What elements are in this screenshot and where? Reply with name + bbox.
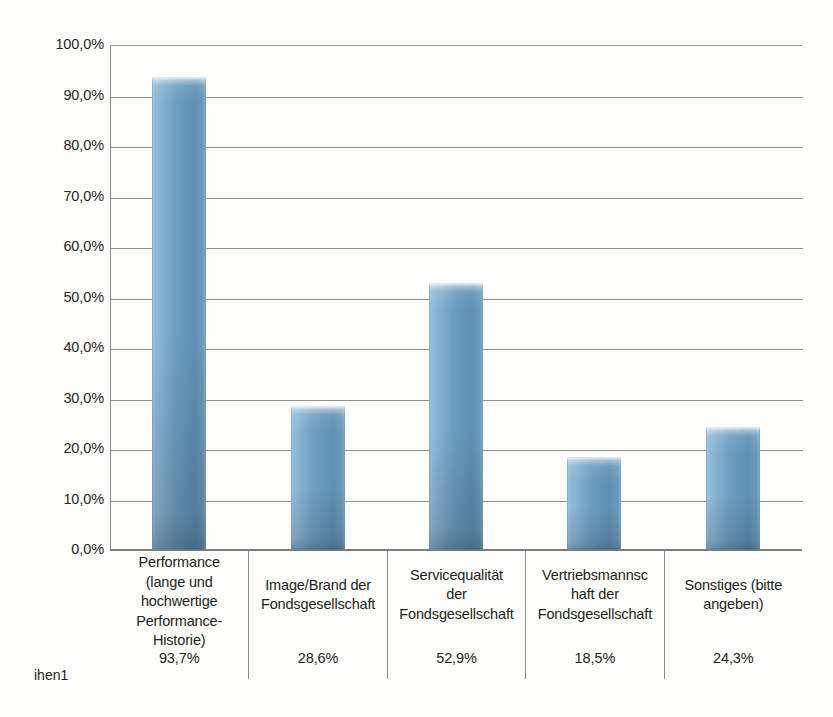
value-label: 28,6% — [249, 650, 386, 666]
y-axis-tick-label: 0,0% — [18, 542, 104, 556]
series-name-label: ihen1 — [34, 667, 104, 683]
y-axis-tick-label: 100,0% — [18, 37, 104, 51]
category-label-line: hochwertige — [112, 592, 246, 612]
gridline — [111, 147, 803, 148]
category-label: Vertriebsmannschaft derFondsgesellschaft — [528, 565, 661, 624]
category-label: Performance(lange undhochwertigePerforma… — [112, 553, 246, 651]
table-column: Performance(lange undhochwertigePerforma… — [110, 551, 248, 679]
bar[interactable] — [706, 427, 760, 550]
category-label: ServicequalitätderFondsgesellschaft — [390, 565, 523, 624]
category-label-line: Vertriebsmannsc — [528, 565, 661, 585]
y-axis-tick-label: 20,0% — [18, 441, 104, 455]
bar[interactable] — [152, 77, 206, 550]
category-label: Sonstiges (bitteangeben) — [667, 575, 800, 614]
y-axis-tick-label: 10,0% — [18, 492, 104, 506]
bar-chart: 100,0%90,0%80,0%70,0%60,0%50,0%40,0%30,0… — [0, 0, 833, 717]
bar[interactable] — [567, 457, 621, 550]
category-label-line: angeben) — [667, 595, 800, 615]
y-axis: 100,0%90,0%80,0%70,0%60,0%50,0%40,0%30,0… — [12, 0, 104, 717]
y-axis-tick-label: 90,0% — [18, 88, 104, 102]
y-axis-tick-label: 70,0% — [18, 189, 104, 203]
category-label-line: Image/Brand der — [251, 575, 384, 595]
table-column: Image/Brand derFondsgesellschaft28,6% — [248, 551, 386, 679]
data-table: Performance(lange undhochwertigePerforma… — [110, 550, 802, 678]
category-label-line: haft der — [528, 585, 661, 605]
value-label: 18,5% — [526, 650, 663, 666]
table-column: Sonstiges (bitteangeben)24,3% — [664, 551, 802, 679]
gridline — [111, 198, 803, 199]
category-label-line: Fondsgesellschaft — [251, 595, 384, 615]
category-label-line: der — [390, 585, 523, 605]
y-axis-tick-label: 30,0% — [18, 391, 104, 405]
y-axis-tick-label: 40,0% — [18, 340, 104, 354]
category-label-line: Servicequalität — [390, 565, 523, 585]
category-label: Image/Brand derFondsgesellschaft — [251, 575, 384, 614]
category-label-line: Performance — [112, 553, 246, 573]
value-label: 93,7% — [110, 650, 248, 666]
value-label: 52,9% — [388, 650, 525, 666]
bar[interactable] — [291, 406, 345, 550]
category-label-line: (lange und — [112, 573, 246, 593]
gridline — [111, 248, 803, 249]
table-column: Vertriebsmannschaft derFondsgesellschaft… — [525, 551, 663, 679]
category-label-line: Sonstiges (bitte — [667, 575, 800, 595]
y-axis-tick-label: 60,0% — [18, 239, 104, 253]
category-label-line: Fondsgesellschaft — [390, 604, 523, 624]
table-column: ServicequalitätderFondsgesellschaft52,9% — [387, 551, 525, 679]
category-label-line: Fondsgesellschaft — [528, 604, 661, 624]
y-axis-tick-label: 80,0% — [18, 138, 104, 152]
gridline — [111, 97, 803, 98]
value-label: 24,3% — [665, 650, 802, 666]
category-label-line: Performance- — [112, 612, 246, 632]
y-axis-tick-label: 50,0% — [18, 290, 104, 304]
bar[interactable] — [429, 283, 483, 550]
category-label-line: Historie) — [112, 631, 246, 651]
